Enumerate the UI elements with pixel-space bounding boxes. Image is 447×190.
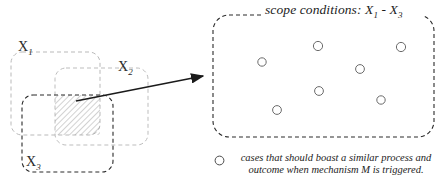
set-label-x1-subscript: 1 xyxy=(28,47,33,57)
set-label-x3: X3 xyxy=(26,155,41,172)
scope-title-dash: - X xyxy=(378,2,398,17)
case-circle xyxy=(315,87,324,96)
set-label-x2-subscript: 2 xyxy=(128,67,133,77)
legend: cases that should boast a similar proces… xyxy=(214,152,447,176)
legend-caption-line-1: cases that should boast a similar proces… xyxy=(231,152,441,164)
case-circle xyxy=(313,41,322,50)
set-label-x2: X2 xyxy=(118,60,133,77)
mapping-arrow xyxy=(76,76,203,101)
case-circle xyxy=(356,65,365,74)
legend-caption: cases that should boast a similar proces… xyxy=(231,152,441,176)
scope-panel-border xyxy=(213,15,434,137)
set-label-x3-subscript: 3 xyxy=(36,162,41,172)
scope-title-sub2: 3 xyxy=(398,10,403,20)
set-label-x3-letter: X xyxy=(26,154,36,169)
case-circle-icon xyxy=(214,155,225,166)
scope-panel-title: scope conditions: X1 - X3 xyxy=(265,2,403,20)
set-label-x1-letter: X xyxy=(18,39,28,54)
scope-conditions-figure: X1 X2 X3 scope conditions: X1 - X3 cases… xyxy=(0,0,447,190)
set-label-x2-letter: X xyxy=(118,59,128,74)
set-label-x1: X1 xyxy=(18,40,33,57)
scope-title-prefix: scope conditions: X xyxy=(265,2,373,17)
case-circle xyxy=(273,106,282,115)
legend-caption-line-2: outcome when mechanism M is triggered. xyxy=(231,164,441,176)
case-circle xyxy=(377,96,385,104)
case-circle xyxy=(396,42,405,51)
case-circle xyxy=(258,58,266,66)
